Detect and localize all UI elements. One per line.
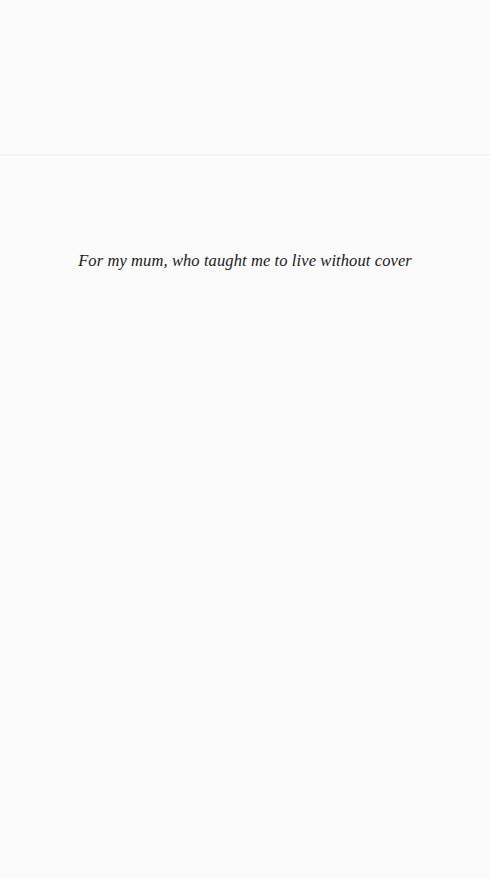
dedication-text: For my mum, who taught me to live withou… bbox=[0, 251, 490, 271]
page-fold-line bbox=[0, 154, 490, 156]
